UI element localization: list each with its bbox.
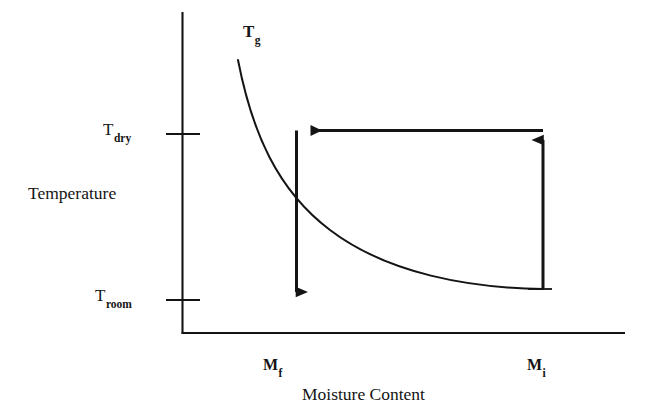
x-axis-title: Moisture Content [302, 384, 425, 405]
curve-label-tg-base: T [243, 22, 254, 41]
y-axis-title: Temperature [28, 183, 116, 204]
glass-transition-curve [238, 60, 543, 289]
figure-canvas: Tdry Troom Temperature Tg Mf Mi Moisture… [0, 0, 652, 419]
x-tick-label-m-f-sub: f [279, 367, 283, 379]
curve-label-tg-sub: g [255, 34, 261, 46]
y-tick-label-t-dry-base: T [103, 120, 113, 139]
x-tick-label-m-f: Mf [263, 356, 282, 376]
curve-label-tg: Tg [243, 22, 260, 43]
x-tick-label-m-f-base: M [263, 356, 278, 373]
y-tick-label-t-dry-sub: dry [114, 132, 131, 144]
x-tick-label-m-i-sub: i [543, 367, 546, 379]
y-tick-label-t-room: Troom [95, 286, 131, 307]
x-tick-label-m-i-base: M [527, 356, 542, 373]
y-tick-label-t-dry: Tdry [103, 120, 131, 141]
x-tick-label-m-i: Mi [527, 356, 545, 376]
y-tick-label-t-room-base: T [95, 286, 105, 305]
y-tick-label-t-room-sub: room [106, 298, 132, 310]
diagram-svg [0, 0, 652, 419]
